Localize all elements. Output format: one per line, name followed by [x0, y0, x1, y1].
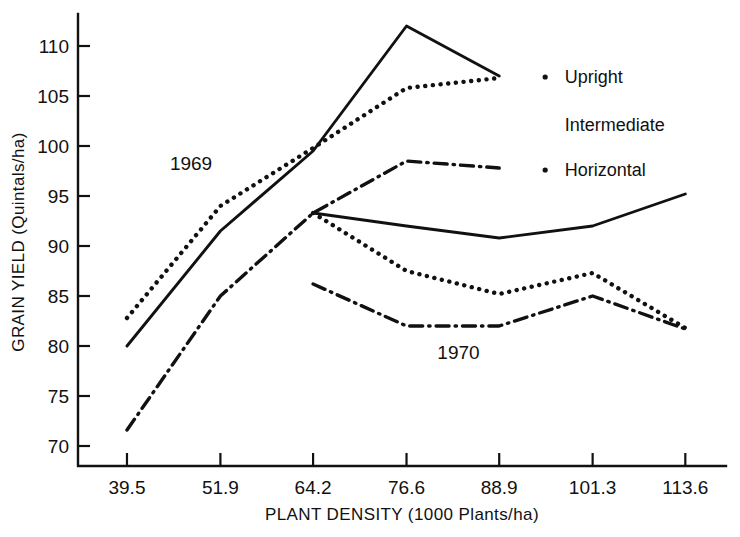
legend-label-horizontal: Horizontal [565, 160, 646, 180]
legend-marker-dot [543, 167, 548, 172]
axis-spine [78, 14, 726, 466]
annotation-1970: 1970 [437, 342, 479, 363]
legend-label-intermediate: Intermediate [565, 115, 665, 135]
series-intermediate-1969 [127, 78, 499, 318]
y-tick-label: 75 [48, 386, 69, 407]
y-tick-label: 70 [48, 436, 69, 457]
series-horizontal-1970 [313, 284, 685, 329]
series-upright-1970 [313, 194, 685, 238]
x-tick-label: 64.2 [295, 477, 332, 498]
x-tick-label: 113.6 [662, 477, 708, 498]
y-tick-label: 90 [48, 236, 69, 257]
y-tick-label: 110 [39, 36, 69, 57]
y-axis-title: GRAIN YIELD (Quintals/ha) [9, 132, 28, 351]
x-axis-title: PLANT DENSITY (1000 Plants/ha) [265, 505, 539, 524]
y-tick-label: 105 [37, 86, 69, 107]
x-tick-label: 88.9 [481, 477, 518, 498]
y-tick-label: 95 [48, 186, 69, 207]
legend-marker-dot [543, 74, 548, 79]
y-tick-label: 100 [37, 136, 69, 157]
y-tick-label: 85 [48, 286, 69, 307]
chart-svg: 70758085909510010511039.551.964.276.688.… [0, 0, 740, 537]
legend-label-upright: Upright [565, 67, 623, 87]
x-tick-label: 101.3 [569, 477, 617, 498]
x-tick-label: 39.5 [108, 477, 145, 498]
chart-figure: 70758085909510010511039.551.964.276.688.… [0, 0, 740, 537]
x-tick-label: 51.9 [202, 477, 239, 498]
x-tick-label: 76.6 [388, 477, 425, 498]
series-upright-1969 [127, 26, 499, 346]
series-horizontal-1969 [127, 161, 499, 430]
annotation-1969: 1969 [170, 153, 212, 174]
y-tick-label: 80 [48, 336, 69, 357]
